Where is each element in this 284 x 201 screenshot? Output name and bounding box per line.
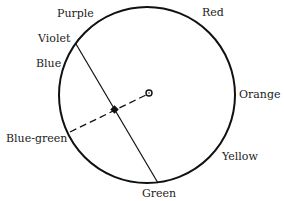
white-point-center — [148, 92, 150, 94]
label-red: Red — [202, 7, 224, 18]
violet-green-line — [76, 44, 158, 183]
label-green: Green — [142, 188, 176, 199]
label-purple: Purple — [57, 8, 94, 19]
label-orange: Orange — [239, 89, 280, 100]
label-blue-green: Blue-green — [6, 133, 67, 144]
label-yellow: Yellow — [222, 151, 258, 162]
label-violet: Violet — [38, 33, 70, 44]
label-blue: Blue — [36, 58, 61, 69]
